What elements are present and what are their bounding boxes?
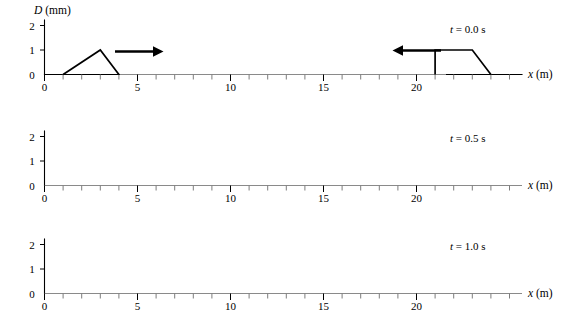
time-label-0: t = 0.0 s [450, 23, 486, 35]
time-label-2: t = 1.0 s [450, 240, 486, 252]
x-tick-label-0-p2: 0 [42, 300, 48, 312]
arrow-right-icon [115, 46, 164, 57]
x-tick-label-10-p0: 10 [225, 81, 237, 93]
x-ticks-2 [45, 294, 510, 301]
x-tick-label-20-p2: 20 [411, 300, 423, 312]
time-label-1: t = 0.5 s [450, 132, 486, 144]
x-tick-label-5-p1: 5 [135, 192, 141, 204]
y-tick-label-0-1: 0 [29, 180, 35, 192]
pulse-trapezoid-left-moving [435, 50, 491, 75]
arrow-left-icon [393, 45, 442, 56]
x-tick-label-15-p0: 15 [318, 81, 330, 93]
x-tick-label-20-p0: 20 [411, 81, 423, 93]
x-tick-label-5-p0: 5 [135, 81, 141, 93]
x-axis-title-1: x (m) [527, 179, 553, 192]
y-tick-label-0-2: 0 [29, 288, 35, 300]
y-tick-label-0-0: 0 [29, 69, 35, 81]
y-tick-label-1-2: 1 [29, 263, 35, 275]
x-tick-label-15-p2: 15 [318, 300, 330, 312]
wave-pulse-figure: D (mm) 2 1 0 [0, 0, 581, 327]
pulse-triangle-right-moving [63, 50, 119, 75]
x-axis-title-0: x (m) [527, 68, 553, 81]
x-tick-label-0-p0: 0 [42, 81, 48, 93]
panel-2: 2 1 0 [29, 239, 553, 313]
x-tick-label-0-p1: 0 [42, 192, 48, 204]
y-tick-label-2-2: 2 [29, 239, 35, 251]
x-axis-title-2: x (m) [527, 287, 553, 300]
y-tick-label-1-0: 1 [29, 44, 35, 56]
x-tick-label-10-p2: 10 [225, 300, 237, 312]
y-tick-label-2-0: 2 [29, 20, 35, 32]
y-axis-title: D (mm) [33, 4, 71, 17]
y-tick-label-1-1: 1 [29, 155, 35, 167]
x-tick-label-15-p1: 15 [318, 192, 330, 204]
x-ticks-0 [45, 75, 510, 82]
x-tick-label-5-p2: 5 [135, 300, 141, 312]
x-tick-label-20-p1: 20 [411, 192, 423, 204]
x-ticks-1 [45, 186, 510, 193]
y-tick-label-2-1: 2 [29, 131, 35, 143]
panel-1: 2 1 0 [29, 131, 553, 205]
x-tick-label-10-p1: 10 [225, 192, 237, 204]
panel-0: D (mm) 2 1 0 [29, 4, 553, 93]
